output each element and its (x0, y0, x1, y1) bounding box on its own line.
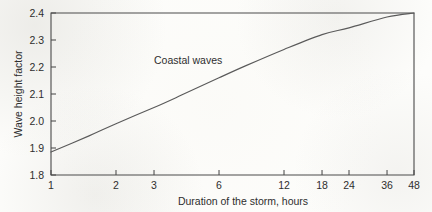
tick-marks (51, 13, 414, 175)
x-tick-labels: 12361218243648 (48, 179, 420, 191)
x-tick-label-18: 18 (316, 179, 328, 191)
plot-frame (51, 13, 414, 175)
y-tick-label-2.3: 2.3 (29, 34, 44, 46)
x-tick-label-12: 12 (278, 179, 290, 191)
x-tick-label-48: 48 (408, 179, 420, 191)
x-axis-title: Duration of the storm, hours (178, 195, 308, 207)
x-tick-label-2: 2 (113, 179, 119, 191)
x-tick-label-24: 24 (343, 179, 355, 191)
axes-frame (51, 13, 414, 175)
y-tick-label-2.1: 2.1 (29, 88, 44, 100)
curve-coastal-waves (51, 13, 414, 152)
x-tick-label-1: 1 (48, 179, 54, 191)
data-series-coastal-waves (51, 13, 414, 152)
y-tick-label-1.9: 1.9 (29, 142, 44, 154)
chart-plot: 1.81.92.02.12.22.32.4 12361218243648 Coa… (0, 0, 432, 212)
series-annotation-label: Coastal waves (154, 54, 222, 66)
y-tick-label-2.0: 2.0 (29, 115, 44, 127)
annotation-coastal-waves: Coastal waves (154, 54, 222, 66)
x-tick-label-3: 3 (151, 179, 157, 191)
y-axis-title: Wave height factor (12, 50, 24, 138)
y-tick-labels: 1.81.92.02.12.22.32.4 (29, 7, 44, 181)
chart-figure: 1.81.92.02.12.22.32.4 12361218243648 Coa… (0, 0, 432, 212)
x-tick-label-36: 36 (381, 179, 393, 191)
y-tick-label-2.4: 2.4 (29, 7, 44, 19)
y-tick-label-1.8: 1.8 (29, 169, 44, 181)
x-tick-label-6: 6 (216, 179, 222, 191)
y-tick-label-2.2: 2.2 (29, 61, 44, 73)
